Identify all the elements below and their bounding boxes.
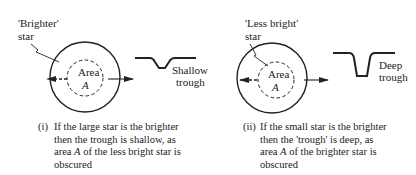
- caption-line: area A of the less bright star is: [54, 146, 204, 159]
- trough-label-line1: Shallow: [172, 64, 208, 76]
- area-symbol: A: [81, 79, 89, 91]
- star-label-line1: 'Less bright': [245, 17, 298, 29]
- caption-number: (ii): [243, 121, 256, 134]
- caption-number: (i): [38, 121, 48, 134]
- panel-ii: 'Less bright' star Area A Deep trough: [237, 17, 408, 113]
- caption-line: area A of the brighter star is: [260, 146, 410, 159]
- pointer-line: [250, 44, 268, 66]
- caption-line: obscured: [260, 159, 410, 172]
- star-label-line1: 'Brighter': [18, 17, 59, 29]
- area-symbol: A: [271, 81, 279, 93]
- trough-label-line1: Deep: [379, 59, 403, 71]
- panel-i: 'Brighter' star Area A Shallow trough: [18, 17, 208, 112]
- caption-line: then the 'trough' is deep, as: [260, 134, 410, 147]
- star-label-line2: star: [18, 30, 34, 42]
- caption-line: If the large star is the brighter: [54, 121, 204, 134]
- area-label: Area: [268, 68, 289, 80]
- trough-label-line2: trough: [176, 76, 205, 88]
- trough-label-line2: trough: [379, 71, 408, 83]
- caption-line: obscured: [54, 159, 204, 172]
- star-label-line2: star: [245, 30, 261, 42]
- caption-line: then the trough is shallow, as: [54, 134, 204, 147]
- area-label: Area: [78, 66, 99, 78]
- caption-line: If the small star is the brighter: [260, 121, 410, 134]
